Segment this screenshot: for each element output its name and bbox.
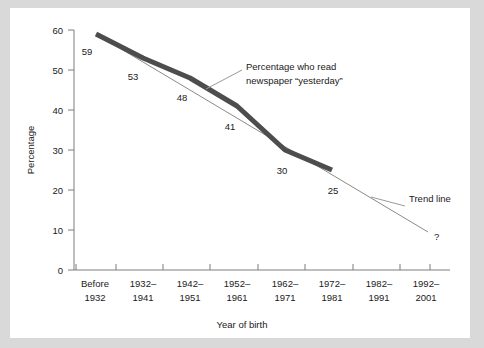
x-axis-title: Year of birth [217,319,268,330]
y-tick-label-50: 50 [52,65,63,76]
y-axis-title: Percentage [25,126,36,175]
x-tick-label-6-line2: 1991 [368,292,389,303]
x-tick-label-1-line1: 1932– [130,278,157,289]
y-tick-group-20: 20 [52,185,74,196]
x-tick-label-1-line2: 1941 [132,292,153,303]
x-tick-label-3-line1: 1952– [224,278,251,289]
trend-line-label: Trend line [409,193,451,204]
trend-line-question-mark: ? [434,231,439,242]
x-tick-label-4: 1962– 1971 [272,278,299,303]
x-tick-label-4-line1: 1962– [272,278,299,289]
x-tick-label-5-line2: 1981 [321,292,342,303]
data-point-label-1: 53 [128,71,139,82]
x-tick-label-4-line2: 1971 [274,292,295,303]
x-tick-label-2: 1942– 1951 [177,278,204,303]
y-tick-label-30: 30 [52,145,63,156]
x-tick-label-2-line1: 1942– [177,278,204,289]
x-tick-label-1: 1932– 1941 [130,278,157,303]
y-tick-group-10: 10 [52,225,74,236]
y-tick-group-60: 60 [52,25,74,36]
newspaper-readership-series: 59 53 48 41 30 25 Percentage who read ne… [82,34,343,196]
x-tick-label-7-line1: 1992– [413,278,440,289]
y-tick-group-40: 40 [52,105,74,116]
x-tick-label-6: 1982– 1991 [366,278,393,303]
data-point-label-0: 59 [82,46,93,57]
x-tick-label-0: Before 1932 [81,278,109,303]
series-callout-line2: newspaper “yesterday” [246,75,343,86]
y-axis: 60 50 40 30 20 10 [25,25,74,276]
newspaper-readership-path [96,34,332,170]
y-tick-label-0: 0 [58,265,63,276]
x-tick-label-5: 1972– 1981 [319,278,346,303]
x-tick-label-0-line1: Before [81,278,109,289]
x-tick-label-7-line2: 2001 [415,292,436,303]
x-axis: Before 1932 1932– 1941 1942– 1951 1952– … [74,264,450,330]
x-tick-label-7: 1992– 2001 [413,278,440,303]
data-point-label-2: 48 [177,92,188,103]
data-point-label-3: 41 [225,121,236,132]
line-chart-canvas: 60 50 40 30 20 10 [10,8,470,338]
x-tick-label-5-line1: 1972– [319,278,346,289]
data-point-label-5: 25 [328,185,339,196]
data-point-label-4: 30 [277,165,288,176]
y-tick-label-40: 40 [52,105,63,116]
series-callout-line1: Percentage who read [246,61,336,72]
y-tick-group-30: 30 [52,145,74,156]
y-tick-label-60: 60 [52,25,63,36]
x-tick-label-3: 1952– 1961 [224,278,251,303]
x-tick-label-0-line2: 1932 [84,292,105,303]
series-callout-leader [206,70,242,89]
y-tick-group-50: 50 [52,65,74,76]
chart-figure: 60 50 40 30 20 10 [10,8,470,338]
x-tick-label-6-line1: 1982– [366,278,393,289]
y-tick-group-0: 0 [58,265,74,276]
x-tick-label-2-line2: 1951 [179,292,200,303]
y-tick-label-10: 10 [52,225,63,236]
x-tick-label-3-line2: 1961 [226,292,247,303]
y-tick-label-20: 20 [52,185,63,196]
